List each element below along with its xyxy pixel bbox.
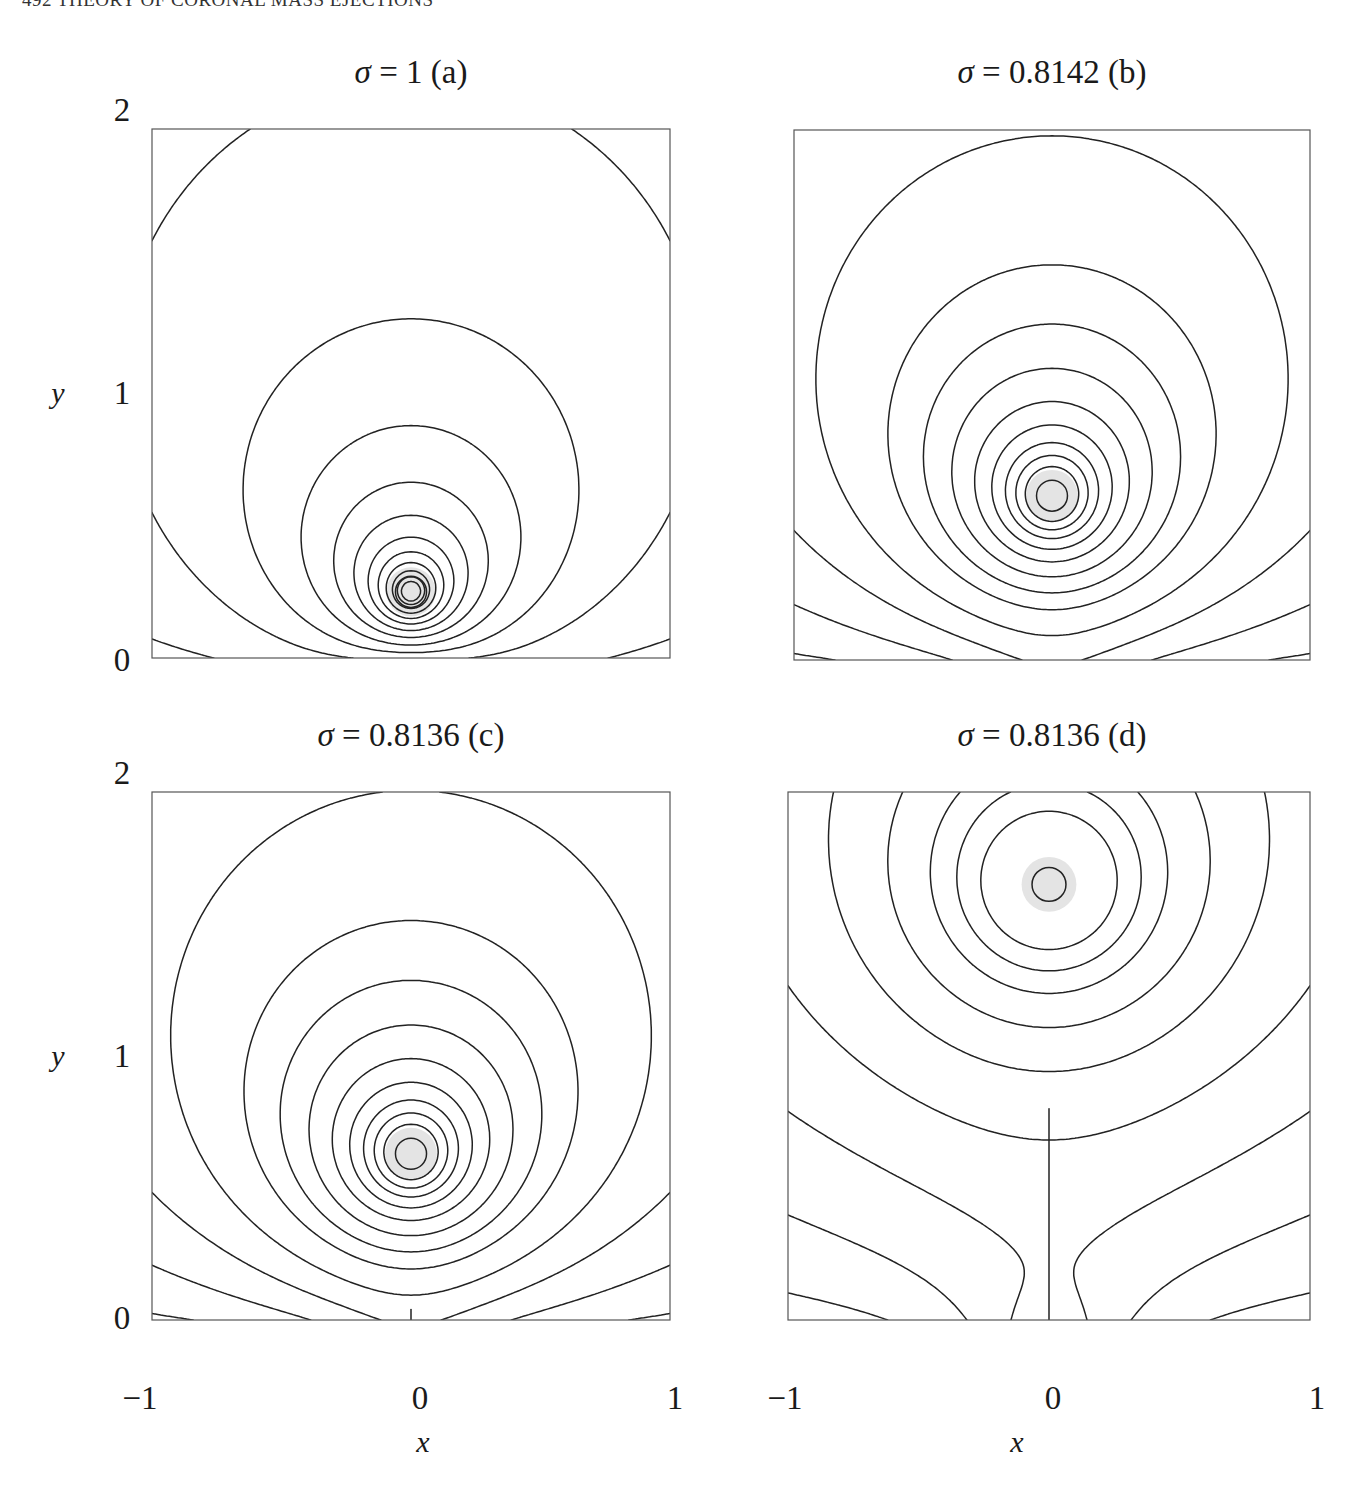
panel-title-d: σ = 0.8136 (d) — [958, 717, 1147, 754]
panel-title-text: = 1 (a) — [371, 54, 468, 90]
sigma-symbol: σ — [317, 717, 333, 753]
field-line — [152, 1193, 670, 1321]
field-line — [280, 980, 542, 1252]
field-line — [244, 921, 578, 1270]
running-head: 492 THEORY OF CORONAL MASS EJECTIONS — [22, 0, 434, 11]
y-tick-0-bottom: 0 — [114, 1300, 131, 1337]
contour-plot-a — [152, 129, 670, 658]
y-axis-label-bottom: y — [51, 1039, 64, 1073]
x-tick-1-right: 1 — [1309, 1380, 1326, 1417]
field-line — [888, 265, 1216, 610]
sigma-symbol: σ — [355, 54, 371, 90]
field-line — [794, 605, 1310, 660]
x-tick-1-left: 1 — [667, 1380, 684, 1417]
x-tick-neg1-right: −1 — [767, 1380, 802, 1417]
panel-title-c: σ = 0.8136 (c) — [317, 717, 504, 754]
x-tick-0-left: 0 — [412, 1380, 429, 1417]
sigma-symbol: σ — [958, 717, 974, 753]
field-line — [829, 792, 1270, 1072]
y-tick-1-bottom: 1 — [114, 1038, 131, 1075]
y-tick-0-top: 0 — [114, 642, 131, 679]
field-line — [816, 136, 1288, 636]
panel-title-text: = 0.8136 (d) — [974, 717, 1147, 753]
plot-frame — [794, 130, 1310, 660]
field-line — [171, 792, 652, 1295]
flux-rope-core — [1022, 857, 1077, 912]
plot-frame — [152, 792, 670, 1320]
x-tick-0-right: 0 — [1045, 1380, 1062, 1417]
panel-title-b: σ = 0.8142 (b) — [958, 54, 1147, 91]
field-line — [794, 654, 1310, 661]
panel-title-a: σ = 1 (a) — [355, 54, 468, 91]
y-tick-2-bottom: 2 — [114, 755, 131, 792]
x-axis-label-left: x — [416, 1425, 429, 1459]
contour-plot-c — [152, 792, 670, 1320]
panel-title-text: = 0.8142 (b) — [974, 54, 1147, 90]
x-axis-label-right: x — [1010, 1425, 1023, 1459]
panel-title-text: = 0.8136 (c) — [334, 717, 505, 753]
y-tick-1-top: 1 — [114, 375, 131, 412]
y-tick-2-top: 2 — [114, 92, 131, 129]
sigma-symbol: σ — [958, 54, 974, 90]
field-line — [923, 324, 1180, 593]
contour-plot-b — [794, 130, 1310, 660]
y-axis-label-top: y — [51, 376, 64, 410]
contour-plot-d — [788, 792, 1310, 1320]
field-line — [152, 639, 670, 658]
x-tick-neg1-left: −1 — [122, 1380, 157, 1417]
